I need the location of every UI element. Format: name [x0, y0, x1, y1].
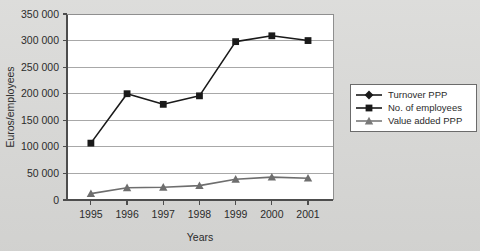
line-chart: 050 000100 000150 000200 000250 000300 0… — [0, 0, 480, 251]
square-marker — [124, 90, 131, 97]
y-tick-label: 300 000 — [21, 34, 59, 46]
x-tick-label: 2001 — [296, 208, 320, 220]
y-tick-label: 0 — [53, 194, 59, 206]
legend-label: Turnover PPP — [388, 89, 447, 100]
square-marker — [196, 92, 203, 99]
plot-area-background — [67, 14, 333, 200]
y-tick-label: 350 000 — [21, 8, 59, 20]
square-marker — [305, 37, 312, 44]
square-marker — [232, 38, 239, 45]
legend-label: Value added PPP — [388, 115, 462, 126]
x-tick-label: 1997 — [152, 208, 176, 220]
y-tick-label: 100 000 — [21, 140, 59, 152]
y-axis-title: Euros/employees — [4, 66, 16, 147]
square-marker — [87, 140, 94, 147]
legend-label: No. of employees — [388, 102, 462, 113]
y-tick-label: 50 000 — [27, 167, 59, 179]
y-tick-label: 150 000 — [21, 114, 59, 126]
x-tick-label: 1995 — [79, 208, 103, 220]
x-axis: 1995199619971998199920002001 — [79, 200, 320, 220]
y-axis: 050 000100 000150 000200 000250 000300 0… — [21, 8, 67, 206]
x-tick-label: 1996 — [115, 208, 139, 220]
square-marker — [366, 105, 373, 112]
x-tick-label: 1999 — [224, 208, 248, 220]
x-tick-label: 1998 — [188, 208, 212, 220]
x-axis-title: Years — [187, 231, 213, 243]
x-tick-label: 2000 — [260, 208, 284, 220]
square-marker — [268, 32, 275, 39]
chart-legend: Turnover PPPNo. of employeesValue added … — [350, 84, 476, 131]
y-tick-label: 200 000 — [21, 87, 59, 99]
chart-canvas: 050 000100 000150 000200 000250 000300 0… — [0, 0, 480, 251]
square-marker — [160, 101, 167, 108]
y-tick-label: 250 000 — [21, 61, 59, 73]
